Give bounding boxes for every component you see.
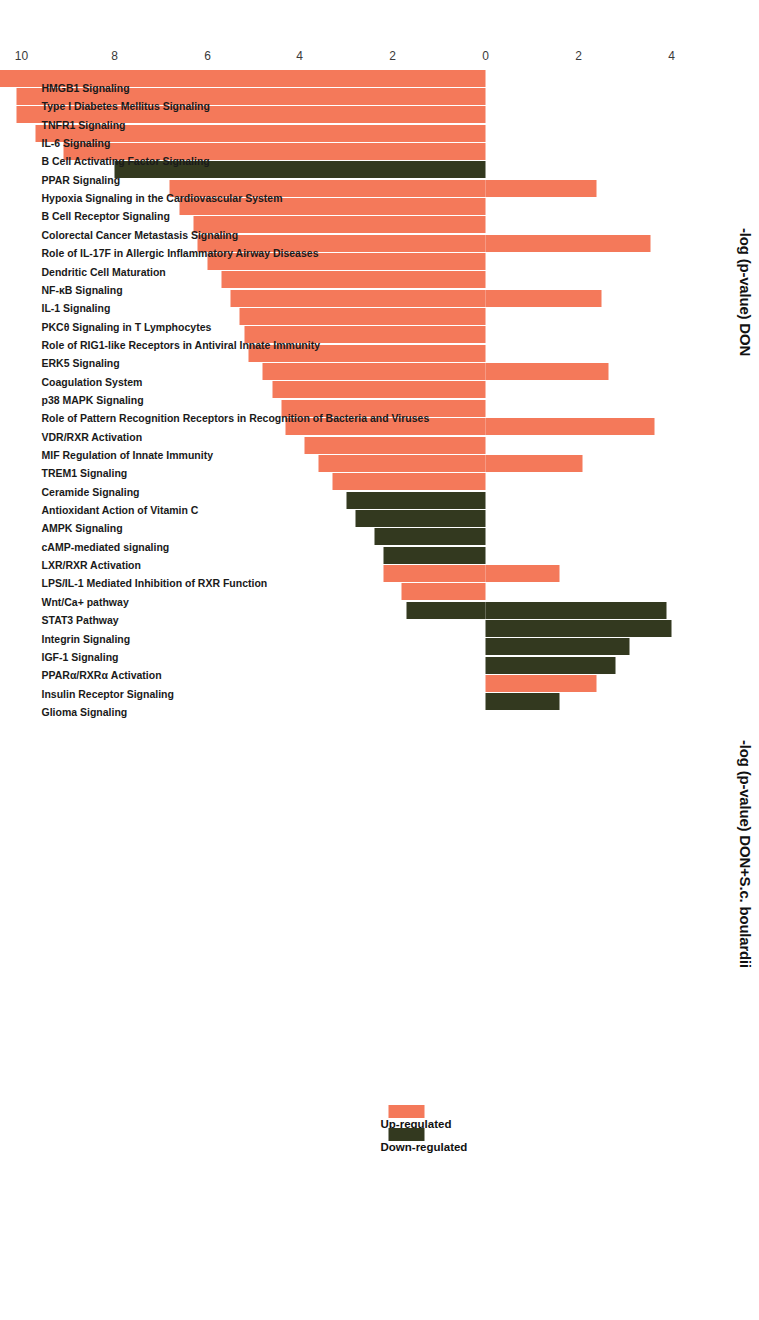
category-label: B Cell Activating Factor Signaling (41, 155, 209, 167)
category-label: PPAR Signaling (41, 174, 120, 186)
legend-swatch (388, 1128, 424, 1141)
bar-negative (383, 547, 485, 564)
legend-label: Down-regulated (380, 1141, 467, 1153)
category-label: p38 MAPK Signaling (41, 394, 143, 406)
category-label: PPARα/RXRα Activation (41, 669, 161, 681)
category-label: Colorectal Cancer Metastasis Signaling (41, 229, 238, 241)
category-label: B Cell Receptor Signaling (41, 210, 169, 222)
category-label: PKCθ Signaling in T Lymphocytes (41, 321, 211, 333)
category-label: Role of RIG1-like Receptors in Antiviral… (41, 339, 320, 351)
bar-negative (332, 473, 485, 490)
bar-negative (262, 363, 485, 380)
bar-negative (239, 308, 485, 325)
category-label: Dendritic Cell Maturation (41, 266, 165, 278)
bar-positive (485, 418, 654, 435)
bar-positive (485, 675, 596, 692)
bar-negative (272, 381, 485, 398)
bar-negative (374, 528, 485, 545)
category-label: NF-κB Signaling (41, 284, 122, 296)
bar-positive (485, 565, 559, 582)
bar-positive (485, 363, 608, 380)
bar-positive (485, 602, 666, 619)
category-label: Role of IL-17F in Allergic Inflammatory … (41, 247, 318, 259)
legend-swatch (388, 1105, 424, 1118)
category-label: IGF-1 Signaling (41, 651, 118, 663)
bar-positive (485, 657, 615, 674)
category-label: Type I Diabetes Mellitus Signaling (41, 100, 209, 112)
category-label: Insulin Receptor Signaling (41, 688, 173, 700)
category-label: Role of Pattern Recognition Receptors in… (41, 412, 429, 424)
axis-title-don-sc-boulardii: -log (p-value) DON+S.c. boulardii (736, 740, 753, 968)
category-label: IL-1 Signaling (41, 302, 110, 314)
category-label: MIF Regulation of Innate Immunity (41, 449, 213, 461)
bar-positive (485, 638, 629, 655)
bar-negative (221, 271, 485, 288)
bar-positive (485, 235, 650, 252)
chart-figure: -log (p-value) DON -log (p-value) DON+S.… (0, 0, 759, 1320)
category-label: ERK5 Signaling (41, 357, 119, 369)
bar-chart: -log (p-value) DON -log (p-value) DON+S.… (0, 0, 759, 1320)
bar-negative (406, 602, 485, 619)
category-label: HMGB1 Signaling (41, 82, 129, 94)
bar-negative (304, 437, 485, 454)
bar-positive (485, 620, 671, 637)
category-label: Hypoxia Signaling in the Cardiovascular … (41, 192, 282, 204)
category-label: STAT3 Pathway (41, 614, 118, 626)
category-label: Wnt/Ca+ pathway (41, 596, 128, 608)
category-label: cAMP-mediated signaling (41, 541, 169, 553)
category-label: LPS/IL-1 Mediated Inhibition of RXR Func… (41, 577, 267, 589)
category-label: Glioma Signaling (41, 706, 127, 718)
rotated-figure-wrapper: -log (p-value) DON -log (p-value) DON+S.… (0, 0, 759, 1320)
bar-negative (383, 565, 485, 582)
category-label: Antioxidant Action of Vitamin C (41, 504, 198, 516)
bar-negative (346, 492, 485, 509)
category-label: TREM1 Signaling (41, 467, 127, 479)
axis-title-don: -log (p-value) DON (736, 228, 753, 356)
legend: Up-regulatedDown-regulated (294, 1105, 424, 1305)
category-label: VDR/RXR Activation (41, 431, 142, 443)
category-label: AMPK Signaling (41, 522, 122, 534)
bar-positive (485, 180, 596, 197)
bar-negative (318, 455, 485, 472)
category-label: Ceramide Signaling (41, 486, 139, 498)
bar-negative (230, 290, 485, 307)
category-label: Coagulation System (41, 376, 142, 388)
category-label: LXR/RXR Activation (41, 559, 140, 571)
bar-positive (485, 290, 601, 307)
axis-tick-7: 10 (14, 49, 27, 63)
category-label: IL-6 Signaling (41, 137, 110, 149)
bar-negative (355, 510, 485, 527)
category-label: TNFR1 Signaling (41, 119, 125, 131)
bar-positive (485, 455, 582, 472)
bar-positive (485, 693, 559, 710)
bar-negative (401, 583, 485, 600)
category-label: Integrin Signaling (41, 633, 130, 645)
